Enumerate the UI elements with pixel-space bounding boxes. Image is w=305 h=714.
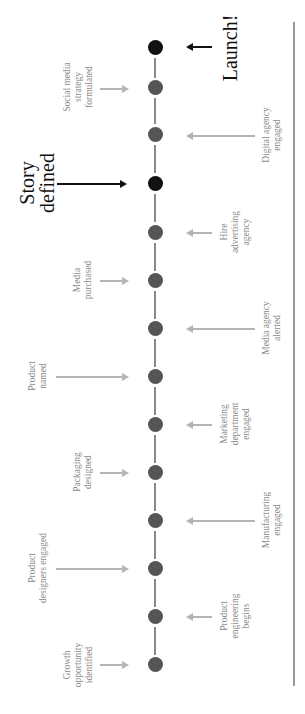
connector [154,339,156,367]
milestone-dot-engineering [148,609,163,624]
arrow-media-purchased [100,280,123,282]
label-marketing: Marketing department engaged [219,403,252,446]
milestone-dot-named [148,369,163,384]
label-media-purchased: Media purchased [72,261,94,300]
arrow-growth [100,664,123,666]
connector [154,579,156,607]
connector [154,98,156,124]
milestone-dot-launch [148,40,163,55]
milestone-dot-media-purchased [148,273,163,288]
connector [154,194,156,222]
milestone-dot-ad-agency [148,225,163,240]
arrow-social [100,88,123,90]
arrow-story [57,183,121,185]
arrow-engineering [192,616,212,618]
connector [154,627,156,655]
milestone-dot-marketing [148,417,163,432]
arrow-packaging [100,472,123,474]
label-launch: Launch! [220,15,240,82]
milestone-dot-media-agency [148,321,163,336]
connector [154,243,156,271]
milestone-dot-story [148,176,163,191]
arrow-named [56,376,123,378]
label-engineering: Product engineering begins [219,594,252,639]
milestone-dot-digital [148,127,163,142]
label-social: Social media strategy formulated [62,62,95,111]
milestone-dot-designers [148,561,163,576]
arrow-designers [56,568,123,570]
connector [154,58,156,78]
label-media-agency: Media agency alerted [261,301,283,355]
milestone-dot-packaging [148,465,163,480]
connector [154,291,156,319]
baseline-rule [293,22,295,686]
timeline-diagram: Launch! Story defined Social media strat… [0,0,305,714]
label-manufacturing: Manufacturing engaged [261,492,283,548]
milestone-dot-growth [148,657,163,672]
label-growth: Growth opportunity identified [62,643,95,687]
connector [154,531,156,559]
milestone-dot-social [148,80,163,95]
label-digital: Digital agency engaged [261,107,283,163]
label-ad-agency: Hire advertising agency [219,211,252,253]
label-designers: Product designers engaged [27,533,49,603]
connector [154,145,156,173]
arrow-marketing [192,424,212,426]
milestone-dot-manufacturing [148,513,163,528]
connector [154,435,156,463]
arrow-digital [192,135,255,137]
label-story-defined: Story defined [17,153,57,213]
label-packaging: Packaging designed [72,452,94,492]
arrow-launch [192,46,212,48]
connector [154,387,156,415]
arrow-manufacturing [192,520,255,522]
arrow-ad-agency [192,232,212,234]
label-named: Product named [27,361,49,391]
arrow-media-agency [192,328,255,330]
connector [154,483,156,511]
